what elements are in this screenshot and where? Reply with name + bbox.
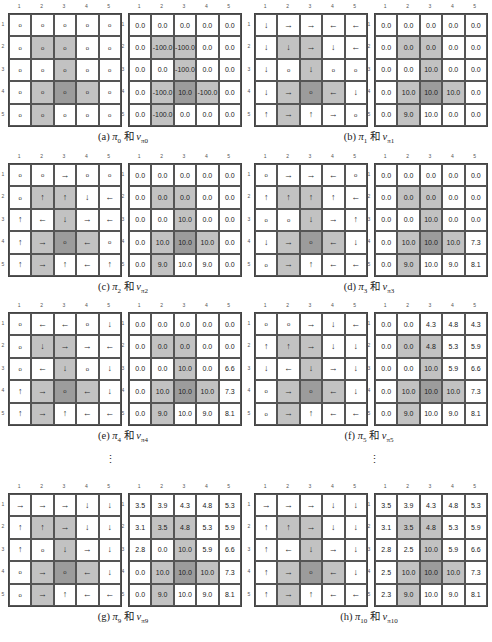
row-label: 4	[365, 80, 373, 102]
value-cell: 8.1	[465, 584, 487, 606]
value-cell: 10.0	[174, 403, 196, 425]
policy-cell: →	[277, 14, 299, 36]
policy-cells: ooooooooooooooooooooooooo	[8, 13, 122, 127]
panel-caption: (d) π3 和 vπ3	[246, 278, 492, 295]
row-label: 2	[0, 35, 7, 57]
column-label: 4	[195, 152, 217, 160]
policy-cell: →	[300, 516, 322, 538]
value-cell: 0.0	[129, 358, 151, 380]
value-cell: 9.0	[442, 403, 464, 425]
policy-cell: o	[99, 231, 121, 253]
value-cell: 0.0	[219, 164, 241, 186]
arrow-down-icon: ↓	[264, 88, 269, 97]
row-label: 5	[365, 253, 373, 275]
policy-cell: ↑	[54, 254, 76, 276]
caption-conj: 和	[124, 131, 134, 142]
value-cell: 4.3	[420, 494, 442, 516]
arrow-down-icon: ↓	[354, 342, 359, 351]
column-header: 12345	[8, 152, 120, 160]
column-label: 1	[254, 2, 276, 10]
policy-cell: ←	[99, 186, 121, 208]
policy-cell: ←	[345, 254, 367, 276]
arrow-up-icon: ↑	[18, 387, 23, 396]
policy-cell: ←	[31, 313, 53, 335]
policy-cell: ←	[345, 403, 367, 425]
value-cells: 0.00.00.00.00.00.00.00.00.00.00.00.010.0…	[128, 312, 242, 426]
value-cell: 0.0	[129, 164, 151, 186]
value-cell: 4.3	[174, 494, 196, 516]
policy-cell: ↑	[9, 209, 31, 231]
value-cell: 0.0	[420, 14, 442, 36]
policy-cell: ←	[345, 313, 367, 335]
policy-cell: ↑	[255, 335, 277, 357]
value-cell: -100.0	[174, 59, 196, 81]
row-label: 1	[245, 493, 253, 515]
row-label: 1	[245, 163, 253, 185]
policy-cell: ↑	[255, 561, 277, 583]
policy-cell: o	[76, 59, 98, 81]
arrow-down-icon: ↓	[63, 545, 68, 554]
value-cell: 4.8	[442, 313, 464, 335]
policy-cell: o	[99, 59, 121, 81]
policy-cell: ↓	[345, 380, 367, 402]
grid-pair: 12345 12345 ooooooooooooooooooooooooo 12…	[0, 2, 246, 126]
value-cell: 0.0	[129, 254, 151, 276]
value-cell: 0.0	[129, 231, 151, 253]
column-label: 5	[98, 301, 120, 309]
policy-cell: →	[76, 209, 98, 231]
caption-value-sub: π2	[141, 287, 148, 295]
arrow-left-icon: ←	[284, 364, 293, 373]
arrow-left-icon: ←	[329, 88, 338, 97]
policy-cell: ↑	[9, 254, 31, 276]
policy-cell: ↓	[76, 516, 98, 538]
policy-cell: ↑	[255, 539, 277, 561]
policy-cell: o	[99, 36, 121, 58]
policy-cell: ←	[31, 209, 53, 231]
arrow-up-icon: ↑	[309, 409, 314, 418]
caption-value-sub: π1	[387, 137, 394, 145]
value-cell: 5.3	[442, 335, 464, 357]
arrow-up-icon: ↑	[264, 523, 269, 532]
column-label: 2	[276, 482, 298, 490]
row-label: 2	[365, 35, 373, 57]
value-cell: 5.3	[465, 494, 487, 516]
caption-policy-sub: 0	[118, 137, 122, 145]
arrow-right-icon: →	[284, 260, 293, 269]
value-cell: 10.0	[151, 561, 173, 583]
policy-cell: →	[54, 164, 76, 186]
policy-cell: o	[345, 104, 367, 126]
policy-cell: o	[31, 104, 53, 126]
policy-cell: o	[9, 104, 31, 126]
value-cell: 7.3	[219, 380, 241, 402]
policy-cell: ←	[76, 380, 98, 402]
value-cell: 10.0	[420, 380, 442, 402]
stay-circle-icon: o	[41, 112, 44, 118]
row-label: 5	[245, 253, 253, 275]
arrow-up-icon: ↑	[264, 545, 269, 554]
row-label: 3	[365, 208, 373, 230]
column-label: 3	[419, 152, 441, 160]
policy-cell: ↑	[277, 186, 299, 208]
row-label: 2	[119, 515, 127, 537]
value-cell: 0.0	[151, 59, 173, 81]
arrow-left-icon: ←	[329, 21, 338, 30]
value-cell: 0.0	[397, 59, 419, 81]
arrow-down-icon: ↓	[331, 523, 336, 532]
value-cell: 6.6	[219, 539, 241, 561]
arrow-right-icon: →	[83, 342, 92, 351]
stay-circle-icon: o	[309, 388, 312, 394]
policy-cell: o	[255, 209, 277, 231]
column-header: 12345	[374, 482, 486, 490]
policy-cell: o	[255, 313, 277, 335]
value-cell: 10.0	[420, 104, 442, 126]
value-cell: 9.0	[397, 104, 419, 126]
policy-cell: ↓	[345, 81, 367, 103]
row-label: 4	[245, 560, 253, 582]
row-label: 2	[119, 185, 127, 207]
arrow-right-icon: →	[284, 568, 293, 577]
policy-cell: ↓	[99, 313, 121, 335]
policy-cell: o	[300, 81, 322, 103]
caption-policy-sub: 3	[364, 287, 368, 295]
value-cell: 0.0	[375, 104, 397, 126]
value-cell: 9.0	[151, 254, 173, 276]
